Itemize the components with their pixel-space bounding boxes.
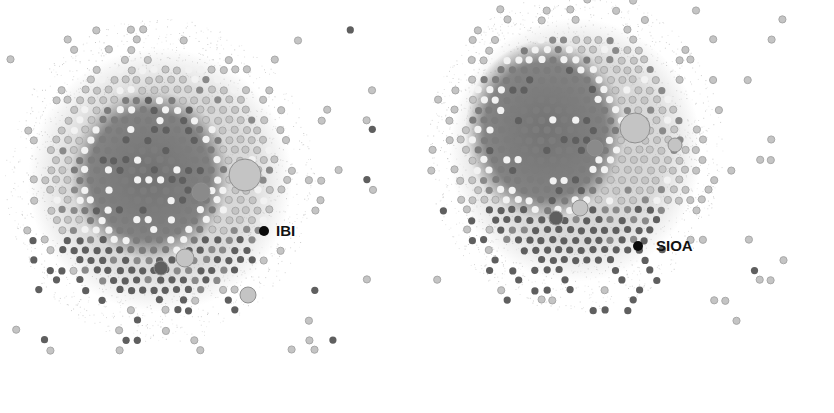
graph-node — [185, 226, 192, 233]
graph-node — [556, 187, 563, 194]
graph-node — [532, 87, 539, 94]
graph-node — [533, 67, 540, 74]
graph-node — [116, 286, 123, 293]
graph-node — [595, 177, 602, 184]
graph-node — [578, 46, 585, 53]
graph-node — [457, 177, 464, 184]
graph-node — [81, 207, 88, 214]
graph-node — [261, 117, 268, 124]
graph-node — [156, 76, 163, 83]
graph-node — [474, 126, 481, 133]
graph-node — [87, 196, 94, 203]
graph-node — [491, 36, 498, 43]
graph-node — [116, 347, 123, 354]
graph-node — [81, 106, 88, 113]
graph-node — [692, 7, 699, 14]
graph-node — [219, 187, 226, 194]
graph-node — [53, 97, 60, 104]
graph-node — [162, 327, 169, 334]
graph-node — [128, 47, 135, 54]
graph-node — [151, 87, 158, 94]
graph-node — [768, 136, 775, 143]
graph-node — [566, 107, 573, 114]
graph-node — [543, 7, 550, 14]
graph-node — [538, 296, 545, 303]
graph-node — [157, 217, 164, 224]
graph-node — [658, 207, 665, 214]
graph-node — [583, 177, 590, 184]
graph-node — [521, 67, 528, 74]
graph-node — [82, 247, 89, 254]
graph-node — [111, 96, 118, 103]
graph-node — [254, 147, 261, 154]
graph-node — [664, 196, 671, 203]
graph-node — [180, 37, 187, 44]
graph-node — [88, 116, 95, 123]
graph-node — [687, 197, 694, 204]
graph-node — [578, 127, 585, 134]
graph-node — [243, 127, 250, 134]
graph-node — [561, 177, 568, 184]
graph-node — [93, 27, 100, 34]
graph-node — [544, 287, 551, 294]
graph-node — [117, 267, 124, 274]
graph-node — [497, 227, 504, 234]
graph-node — [561, 136, 568, 143]
graph-node — [504, 136, 511, 143]
graph-node — [699, 236, 706, 243]
graph-node — [242, 87, 249, 94]
graph-node — [87, 76, 94, 83]
graph-node — [635, 66, 642, 73]
graph-node — [122, 197, 129, 204]
graph-node — [30, 256, 37, 263]
graph-node — [87, 137, 94, 144]
graph-node — [214, 76, 221, 83]
graph-node — [214, 177, 221, 184]
graph-node — [71, 207, 78, 214]
graph-node — [572, 117, 579, 124]
graph-node — [492, 176, 499, 183]
graph-node — [578, 247, 585, 254]
graph-node — [318, 117, 325, 124]
graph-node — [202, 157, 209, 164]
graph-node — [589, 187, 596, 194]
graph-node — [81, 147, 88, 154]
graph-node — [242, 207, 249, 214]
graph-node — [653, 216, 660, 223]
graph-node — [243, 226, 250, 233]
graph-node — [265, 147, 272, 154]
graph-node — [231, 306, 238, 313]
graph-node — [641, 56, 648, 63]
graph-node — [606, 197, 613, 204]
graph-node — [589, 106, 596, 113]
graph-node — [144, 137, 151, 144]
graph-node — [520, 87, 527, 94]
graph-node — [220, 267, 227, 274]
graph-node — [196, 126, 203, 133]
graph-node — [469, 136, 476, 143]
graph-node — [25, 127, 32, 134]
graph-node — [550, 76, 557, 83]
graph-node — [168, 197, 175, 204]
network-graph-left-canvas — [0, 0, 420, 413]
graph-node — [7, 56, 14, 63]
graph-node — [59, 206, 66, 213]
graph-node — [573, 216, 580, 223]
graph-node — [670, 106, 677, 113]
graph-node — [248, 236, 255, 243]
graph-node — [549, 116, 556, 123]
graph-node — [681, 166, 688, 173]
graph-node — [641, 156, 648, 163]
graph-node — [521, 226, 528, 233]
graph-node — [676, 176, 683, 183]
graph-node — [584, 37, 591, 44]
graph-node — [532, 227, 539, 234]
graph-node — [503, 97, 510, 104]
graph-node — [311, 287, 318, 294]
graph-node — [156, 236, 163, 243]
graph-node — [202, 116, 209, 123]
graph-node — [76, 216, 83, 223]
graph-node — [145, 97, 152, 104]
graph-node — [248, 117, 255, 124]
graph-node — [122, 257, 129, 264]
